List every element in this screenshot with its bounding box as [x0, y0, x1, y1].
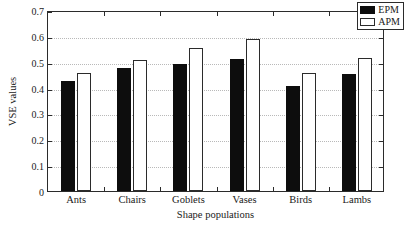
- y-tick-label: 0.3: [32, 110, 45, 120]
- x-tick-mark: [217, 187, 218, 191]
- bar-chairs-epm: [117, 68, 131, 191]
- bar-birds-epm: [286, 86, 300, 191]
- x-tick-mark: [329, 187, 330, 191]
- legend-swatch-epm-icon: [360, 6, 375, 14]
- x-tick-mark: [160, 12, 161, 16]
- legend-label-epm: EPM: [378, 5, 399, 15]
- y-tick-mark: [48, 141, 52, 142]
- y-tick-mark: [48, 38, 52, 39]
- x-tick-mark: [160, 187, 161, 191]
- y-tick-label: 0.6: [32, 33, 45, 43]
- legend-label-apm: APM: [378, 17, 400, 27]
- y-tick-mark: [48, 64, 52, 65]
- legend-item-epm: EPM: [360, 4, 400, 16]
- y-tick-mark: [48, 115, 52, 116]
- bar-lambs-epm: [342, 74, 356, 191]
- bar-ants-epm: [61, 81, 75, 191]
- x-tick-mark: [104, 187, 105, 191]
- y-axis-title: VSE values: [6, 11, 20, 192]
- y-tick-mark: [379, 167, 383, 168]
- y-tick-mark: [379, 141, 383, 142]
- y-gridline: [48, 115, 383, 116]
- x-tick-mark: [217, 12, 218, 16]
- y-tick-label: 0.1: [32, 162, 45, 172]
- x-tick-label: Birds: [289, 195, 312, 206]
- y-gridline: [48, 64, 383, 65]
- y-tick-label: 0.7: [32, 7, 45, 17]
- y-tick-label: 0.5: [32, 59, 45, 69]
- bar-goblets-epm: [173, 64, 187, 191]
- x-axis-title: Shape populations: [47, 209, 384, 221]
- bar-lambs-apm: [358, 58, 372, 191]
- y-tick-mark: [379, 115, 383, 116]
- y-gridline: [48, 167, 383, 168]
- y-tick-mark: [48, 167, 52, 168]
- chart-legend: EPM APM: [357, 2, 404, 30]
- legend-swatch-apm-icon: [360, 18, 375, 26]
- x-tick-mark: [104, 12, 105, 16]
- bar-ants-apm: [77, 73, 91, 191]
- y-gridline: [48, 38, 383, 39]
- x-tick-label: Lambs: [343, 195, 372, 206]
- y-tick-mark: [48, 12, 52, 13]
- x-tick-label: Vases: [233, 195, 257, 206]
- y-tick-mark: [379, 90, 383, 91]
- y-tick-mark: [379, 64, 383, 65]
- y-gridline: [48, 141, 383, 142]
- x-tick-mark: [273, 187, 274, 191]
- plot-area: 00.10.20.30.40.50.60.7AntsChairsGobletsV…: [47, 11, 384, 192]
- y-gridline: [48, 90, 383, 91]
- x-tick-mark: [273, 12, 274, 16]
- x-tick-label: Chairs: [119, 195, 146, 206]
- legend-item-apm: APM: [360, 16, 400, 28]
- y-tick-mark: [48, 90, 52, 91]
- y-tick-mark: [379, 38, 383, 39]
- bar-vases-apm: [246, 39, 260, 191]
- bar-chairs-apm: [133, 60, 147, 191]
- x-tick-mark: [329, 12, 330, 16]
- bar-vases-epm: [230, 59, 244, 191]
- bar-birds-apm: [302, 73, 316, 191]
- chart-figure: VSE values 00.10.20.30.40.50.60.7AntsCha…: [0, 0, 406, 229]
- x-tick-label: Ants: [66, 195, 86, 206]
- bar-goblets-apm: [189, 48, 203, 191]
- y-tick-label: 0: [39, 188, 44, 198]
- y-tick-label: 0.4: [32, 85, 45, 95]
- x-tick-label: Goblets: [172, 195, 205, 206]
- y-tick-label: 0.2: [32, 136, 45, 146]
